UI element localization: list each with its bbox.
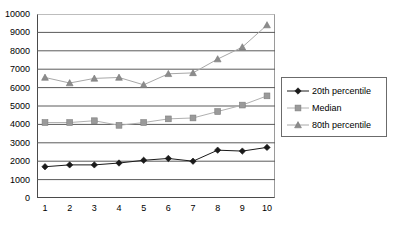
legend-marker-triangle-icon	[286, 118, 310, 132]
legend-item-0[interactable]: 20th percentile	[286, 82, 383, 99]
legend-label: 80th percentile	[310, 120, 371, 130]
line-chart: 0100020003000400050006000700080009000100…	[0, 0, 394, 226]
chart-legend: 20th percentile Median 80th percentile	[281, 77, 387, 137]
x-tick-label: 3	[84, 204, 104, 213]
legend-swatch	[286, 101, 310, 115]
legend-marker-square-icon	[286, 101, 310, 115]
legend-swatch	[286, 84, 310, 98]
data-point-square	[295, 105, 301, 111]
x-tick-label: 6	[158, 204, 178, 213]
x-tick-label: 4	[109, 204, 129, 213]
x-tick-label: 10	[257, 204, 277, 213]
legend-item-1[interactable]: Median	[286, 99, 383, 116]
x-tick-label: 8	[208, 204, 228, 213]
x-tick-label: 1	[35, 204, 55, 213]
legend-marker-diamond-icon	[286, 84, 310, 98]
x-tick-label: 7	[183, 204, 203, 213]
legend-item-2[interactable]: 80th percentile	[286, 116, 383, 133]
legend-swatch	[286, 118, 310, 132]
x-tick-label: 9	[232, 204, 252, 213]
x-tick-label: 2	[60, 204, 80, 213]
data-point-diamond	[295, 87, 301, 93]
x-tick-label: 5	[134, 204, 154, 213]
legend-label: Median	[310, 103, 342, 113]
legend-label: 20th percentile	[310, 86, 371, 96]
